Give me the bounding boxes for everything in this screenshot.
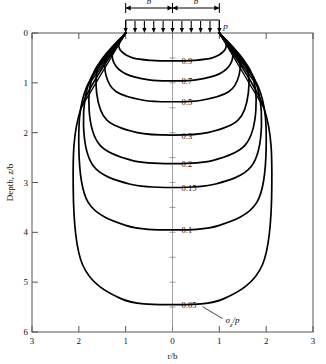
- dimension-b-left-label: b: [147, 0, 152, 6]
- sigma-leader-line: [203, 307, 223, 319]
- dimension-b-right-label: b: [194, 0, 199, 6]
- x-axis-label: r/b: [168, 351, 178, 361]
- load-arrow-head: [170, 28, 174, 33]
- load-arrow-head: [180, 28, 184, 33]
- pressure-label: p: [222, 21, 228, 31]
- sigma-over-p-annotation: σz/p: [226, 315, 240, 328]
- dimension-b-right-arrow-left: [173, 5, 178, 10]
- contour-label: 0.15: [182, 183, 197, 193]
- y-tick-label: 0: [24, 28, 29, 38]
- x-tick-label: 3: [311, 336, 316, 346]
- contour-label: 0.05: [182, 300, 197, 310]
- load-arrow-head: [208, 28, 212, 33]
- y-tick-label: 5: [24, 277, 29, 287]
- load-arrow-head: [133, 28, 137, 33]
- edge-ray-left: [86, 33, 125, 88]
- contour-label: 0.5: [182, 97, 193, 107]
- x-tick-label: 1: [123, 336, 128, 346]
- figure-container: 3210123r/b0123456Depth, z/b0.90.70.50.30…: [0, 0, 326, 364]
- edge-ray-right: [219, 33, 258, 88]
- y-tick-label: 3: [24, 178, 29, 188]
- contour-label: 0.9: [182, 56, 193, 66]
- y-tick-label: 2: [24, 128, 29, 138]
- load-arrow-head: [142, 28, 146, 33]
- load-arrow-head: [124, 28, 128, 33]
- x-tick-label: 0: [170, 336, 175, 346]
- contour-label: 0.7: [182, 76, 193, 86]
- y-tick-label: 1: [24, 78, 29, 88]
- load-arrow-head: [152, 28, 156, 33]
- load-arrow-head: [199, 28, 203, 33]
- stress-contour-plot: 3210123r/b0123456Depth, z/b0.90.70.50.30…: [0, 0, 326, 364]
- y-tick-label: 4: [24, 227, 29, 237]
- y-axis-label: Depth, z/b: [5, 163, 15, 201]
- dimension-b-right-arrow-right: [214, 5, 219, 10]
- dimension-b-left-arrow-right: [168, 5, 173, 10]
- x-tick-label: 2: [264, 336, 269, 346]
- dimension-b-left-arrow-left: [126, 5, 131, 10]
- load-arrow-head: [217, 28, 221, 33]
- y-tick-label: 6: [24, 327, 29, 337]
- load-arrow-head: [189, 28, 193, 33]
- contour-label: 0.1: [182, 225, 193, 235]
- contour-label: 0.2: [182, 159, 193, 169]
- contour-label: 0.3: [182, 131, 193, 141]
- x-tick-label: 1: [217, 336, 222, 346]
- x-tick-label: 3: [30, 336, 35, 346]
- load-arrow-head: [161, 28, 165, 33]
- x-tick-label: 2: [77, 336, 82, 346]
